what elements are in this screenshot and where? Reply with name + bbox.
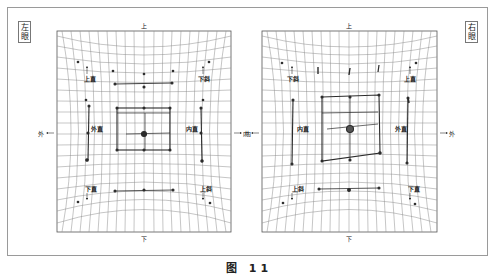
figure-caption: 图 11 (226, 259, 272, 275)
left-outer-direction: 外 (38, 130, 44, 137)
left-muscle-superior-oblique: 上斜 (200, 185, 212, 192)
right-muscle-inferior-rectus: 下直 (408, 185, 420, 192)
left-top-label: 上 (141, 22, 147, 29)
right-bottom-label: 下 (346, 235, 352, 242)
right-eye-tag: 右 眼 (465, 21, 478, 43)
right-inner-direction: 内 (245, 130, 251, 137)
right-top-label: 上 (346, 22, 352, 29)
right-outer-direction: 外 (449, 130, 455, 137)
right-muscle-inferior-oblique: 下斜 (287, 75, 299, 82)
left-muscle-superior-rectus: 上直 (84, 75, 96, 82)
right-muscle-medial-rectus: 内直 (297, 125, 309, 132)
eye-tag-char: 眼 (466, 32, 477, 41)
eye-tag-char: 眼 (19, 32, 30, 41)
left-eye-tag: 左 眼 (18, 21, 31, 43)
left-muscle-inferior-rectus: 下直 (85, 185, 97, 192)
right-muscle-superior-oblique: 上斜 (292, 185, 304, 192)
left-muscle-medial-rectus: 内直 (186, 125, 198, 132)
left-muscle-lateral-rectus: 外直 (91, 125, 103, 132)
eye-tag-char: 左 (19, 23, 30, 32)
right-muscle-superior-rectus: 上直 (404, 75, 416, 82)
right-muscle-lateral-rectus: 外直 (395, 125, 407, 132)
eye-tag-char: 右 (466, 23, 477, 32)
left-bottom-label: 下 (141, 235, 147, 242)
left-muscle-inferior-oblique: 下斜 (198, 75, 210, 82)
